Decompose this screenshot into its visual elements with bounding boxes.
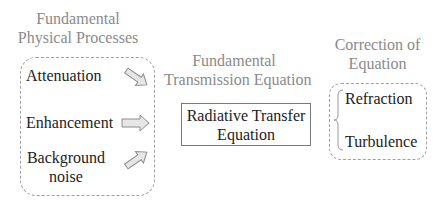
arrow-up-right-icon <box>122 147 152 171</box>
right-section-title: Correction of Equation <box>325 35 430 73</box>
middle-section-title: Fundamental Transmission Equation <box>164 51 304 89</box>
middle-title-line1: Fundamental <box>164 51 304 70</box>
rte-line2: Equation <box>182 125 310 144</box>
right-title-line1: Correction of <box>325 35 430 54</box>
background-noise-label: Background noise <box>26 148 106 186</box>
attenuation-label: Attenuation <box>26 66 102 85</box>
arrow-down-right-icon <box>122 66 152 90</box>
turbulence-label: Turbulence <box>345 132 417 151</box>
background-noise-line1: Background <box>26 148 106 167</box>
middle-title-line2: Transmission Equation <box>164 70 304 89</box>
enhancement-label: Enhancement <box>26 113 113 132</box>
arrow-right-icon <box>121 114 151 132</box>
refraction-label: Refraction <box>345 89 413 108</box>
rte-line1: Radiative Transfer <box>182 106 310 125</box>
right-title-line2: Equation <box>325 54 430 73</box>
radiative-transfer-equation-box: Radiative Transfer Equation <box>181 103 311 146</box>
left-section-title: Fundamental Physical Processes <box>8 9 148 47</box>
background-noise-line2: noise <box>26 167 106 186</box>
left-title-line2: Physical Processes <box>8 28 148 47</box>
left-title-line1: Fundamental <box>8 9 148 28</box>
left-brace-icon <box>333 89 345 151</box>
